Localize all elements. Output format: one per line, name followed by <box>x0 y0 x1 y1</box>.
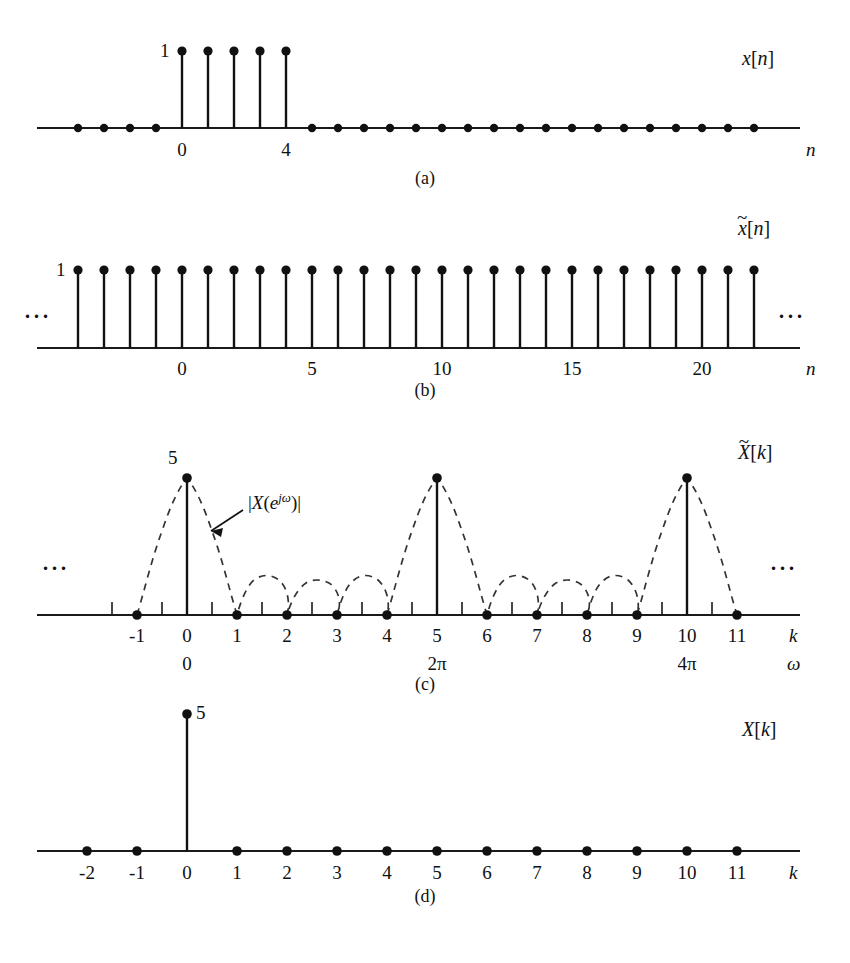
panel-c-tick-4: 4 <box>382 626 392 645</box>
panel-a-tick-4: 4 <box>281 140 291 159</box>
panel-c-tick-10: 10 <box>678 626 697 645</box>
panel-c-signal-label: X~[k] <box>738 442 772 462</box>
panel-c-tick-11: 11 <box>728 626 746 645</box>
panel-c-omega-0: 0 <box>182 654 192 673</box>
panel-d-plot <box>0 694 850 963</box>
panel-b-tick-10: 10 <box>433 359 452 378</box>
panel-b: 1 ··· ··· 0 5 10 15 20 n x~[n] (b) <box>0 196 850 404</box>
panel-c-annotation-arrow <box>211 510 243 537</box>
panel-c-axis-label-omega: ω <box>787 654 800 673</box>
panel-d-tick-6: 6 <box>482 863 492 882</box>
panel-c-tick-2: 2 <box>282 626 292 645</box>
panel-c-tick-6: 6 <box>482 626 492 645</box>
panel-d-tick--1: -1 <box>129 863 145 882</box>
panel-b-ellipsis-left: ··· <box>24 304 51 329</box>
panel-c-tick-7: 7 <box>532 626 542 645</box>
panel-c-tick-9: 9 <box>632 626 642 645</box>
panel-b-tick-5: 5 <box>307 359 317 378</box>
panel-d-tick-7: 7 <box>532 863 542 882</box>
panel-c-omega-2pi: 2π <box>427 654 446 673</box>
panel-a: 1 0 4 n x[n] (a) <box>0 0 850 196</box>
panel-b-stems <box>73 265 758 348</box>
panel-d-signal-label: X[k] <box>742 719 776 739</box>
panel-c-tick-5: 5 <box>432 626 442 645</box>
panel-c-omega-4pi: 4π <box>677 654 696 673</box>
panel-d-axis-label: k <box>789 863 797 882</box>
panel-b-plot <box>0 196 850 404</box>
panel-d-tick-1: 1 <box>232 863 242 882</box>
panel-d-tick-11: 11 <box>728 863 746 882</box>
panel-d: 5 -2 -1 0 1 2 3 4 5 6 7 8 9 10 11 k X[k]… <box>0 694 850 963</box>
panel-d-tick-10: 10 <box>678 863 697 882</box>
panel-b-tick-0: 0 <box>177 359 187 378</box>
panel-a-value-label: 1 <box>160 41 170 60</box>
panel-d-tick-4: 4 <box>382 863 392 882</box>
panel-b-signal-label: x~[n] <box>738 218 770 238</box>
panel-a-axis-label: n <box>806 140 816 159</box>
panel-c-value-label: 5 <box>168 448 178 467</box>
panel-c-tick-3: 3 <box>332 626 342 645</box>
panel-c-plot <box>0 404 850 694</box>
panel-c-caption: (c) <box>0 674 850 695</box>
panel-c-ellipsis-left: ··· <box>42 556 69 581</box>
panel-b-axis-label: n <box>806 359 816 378</box>
panel-c-tick-8: 8 <box>582 626 592 645</box>
panel-d-tick-8: 8 <box>582 863 592 882</box>
panel-a-stems <box>177 46 290 128</box>
panel-d-tick-3: 3 <box>332 863 342 882</box>
panel-c-axis-label-k: k <box>789 626 797 645</box>
panel-d-caption: (d) <box>0 886 850 907</box>
panel-b-value-label: 1 <box>56 260 66 279</box>
panel-a-signal-label: x[n] <box>742 48 774 68</box>
panel-a-caption: (a) <box>0 168 850 189</box>
panel-d-tick--2: -2 <box>79 863 95 882</box>
panel-d-tick-2: 2 <box>282 863 292 882</box>
panel-c: 5 |X(ejω)| ··· ··· -1 0 1 2 3 4 5 6 7 8 … <box>0 404 850 694</box>
panel-c-minor-ticks <box>112 602 712 615</box>
panel-d-tick-5: 5 <box>432 863 442 882</box>
panel-d-tick-0: 0 <box>182 863 192 882</box>
panel-d-tick-9: 9 <box>632 863 642 882</box>
panel-a-plot <box>0 0 850 196</box>
dsp-figure: 1 0 4 n x[n] (a) <box>0 0 850 963</box>
panel-c-tick-1: 1 <box>232 626 242 645</box>
panel-c-envelope-annotation: |X(ejω)| <box>248 490 301 514</box>
panel-c-tick--1: -1 <box>129 626 145 645</box>
panel-b-tick-15: 15 <box>563 359 582 378</box>
panel-c-ellipsis-right: ··· <box>770 556 797 581</box>
panel-b-ellipsis-right: ··· <box>778 304 805 329</box>
panel-b-tick-20: 20 <box>693 359 712 378</box>
panel-a-tick-0: 0 <box>177 140 187 159</box>
panel-c-tick-0: 0 <box>182 626 192 645</box>
panel-d-stems <box>182 709 192 851</box>
panel-d-value-label: 5 <box>196 703 206 722</box>
panel-b-caption: (b) <box>0 380 850 401</box>
